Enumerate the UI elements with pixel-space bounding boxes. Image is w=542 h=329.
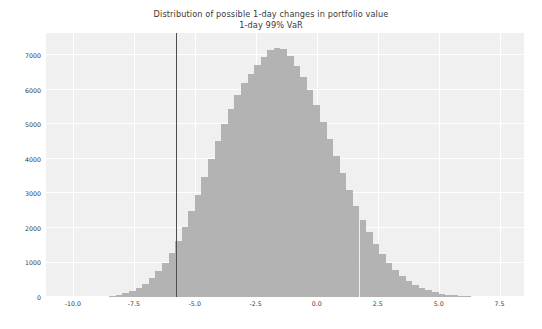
histogram-bar xyxy=(221,124,228,297)
histogram-bar xyxy=(432,292,439,297)
histogram-bar xyxy=(188,211,195,297)
histogram-bar xyxy=(360,220,367,297)
histogram-bar xyxy=(287,56,294,297)
histogram-bar xyxy=(149,278,156,297)
x-tick-label: 2.5 xyxy=(373,300,383,307)
plot-area xyxy=(46,33,524,297)
x-tick-label: 0.0 xyxy=(312,300,322,307)
y-tick: 7000 xyxy=(41,52,57,59)
histogram-bar xyxy=(307,90,314,297)
histogram-bar xyxy=(379,254,386,297)
histogram-bar xyxy=(327,139,334,297)
y-tick-label: 0 xyxy=(37,294,41,301)
y-tick-label: 7000 xyxy=(25,52,41,59)
x-tick-label: 7.5 xyxy=(495,300,505,307)
histogram-bar xyxy=(353,206,360,297)
histogram-bar xyxy=(412,285,419,297)
histogram-bar xyxy=(169,253,176,297)
histogram-bar xyxy=(234,95,241,297)
y-tick-label: 3000 xyxy=(25,190,41,197)
histogram-bar xyxy=(419,288,426,297)
histogram-bar xyxy=(228,109,235,297)
histogram-bar xyxy=(261,57,268,297)
x-tick-label: -7.5 xyxy=(128,300,140,307)
y-tick: 1000 xyxy=(41,259,57,266)
histogram-bar xyxy=(208,159,215,297)
chart-title: Distribution of possible 1-day changes i… xyxy=(0,9,542,20)
y-tick-label: 2000 xyxy=(25,224,41,231)
histogram-bar xyxy=(116,295,123,297)
histogram-bar xyxy=(254,65,261,297)
histogram-bar xyxy=(195,195,202,297)
histogram-bar xyxy=(300,77,307,297)
histogram-bar xyxy=(346,190,353,297)
y-tick: 0 xyxy=(41,294,45,301)
x-tick-label: -2.5 xyxy=(250,300,262,307)
histogram-bar xyxy=(425,290,432,297)
histogram-bar xyxy=(386,263,393,298)
histogram-bar xyxy=(340,173,347,297)
histogram-bar xyxy=(274,48,281,298)
histogram-bar xyxy=(280,49,287,297)
x-tick-label: -10.0 xyxy=(65,300,81,307)
histogram-bar xyxy=(465,296,472,297)
histogram-bars xyxy=(46,33,524,297)
histogram-bar xyxy=(313,105,320,297)
chart-subtitle: 1-day 99% VaR xyxy=(0,20,542,31)
chart-title-block: Distribution of possible 1-day changes i… xyxy=(0,9,542,31)
y-tick-label: 5000 xyxy=(25,121,41,128)
histogram-bar xyxy=(458,296,465,297)
histogram-bar xyxy=(294,66,301,297)
histogram-bar xyxy=(373,244,380,297)
histogram-bar xyxy=(162,263,169,297)
histogram-bar xyxy=(399,276,406,297)
var-threshold-line xyxy=(176,33,177,297)
histogram-bar xyxy=(406,281,413,297)
y-tick: 3000 xyxy=(41,190,57,197)
histogram-bar xyxy=(439,294,446,297)
histogram-bar xyxy=(122,293,129,297)
y-tick-label: 4000 xyxy=(25,155,41,162)
histogram-bar xyxy=(320,122,327,297)
y-tick-label: 1000 xyxy=(25,259,41,266)
histogram-bar xyxy=(333,156,340,297)
x-tick-label: -5.0 xyxy=(189,300,201,307)
histogram-bar xyxy=(366,232,373,297)
y-tick-label: 6000 xyxy=(25,86,41,93)
histogram-bar xyxy=(182,227,189,297)
histogram-bar xyxy=(215,141,222,297)
histogram-bar xyxy=(155,271,162,297)
y-tick: 5000 xyxy=(41,121,57,128)
chart-figure: Distribution of possible 1-day changes i… xyxy=(0,0,542,329)
histogram-bar xyxy=(452,295,459,297)
histogram-bar xyxy=(142,284,149,297)
histogram-bar xyxy=(109,296,116,297)
y-tick: 2000 xyxy=(41,224,57,231)
histogram-bar xyxy=(267,50,274,297)
y-tick: 6000 xyxy=(41,86,57,93)
histogram-bar xyxy=(392,270,399,297)
histogram-bar xyxy=(445,295,452,297)
histogram-bar xyxy=(248,74,255,297)
x-tick-label: 5.0 xyxy=(434,300,444,307)
histogram-bar xyxy=(201,177,208,297)
histogram-bar xyxy=(129,291,136,297)
histogram-bar xyxy=(241,83,248,297)
histogram-bar xyxy=(136,288,143,297)
y-tick: 4000 xyxy=(41,155,57,162)
